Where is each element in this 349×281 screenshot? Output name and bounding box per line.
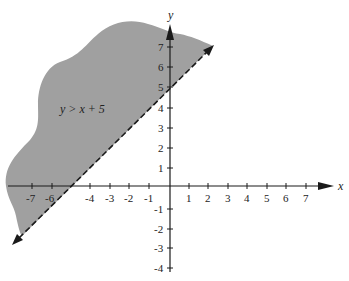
x-tick-label: -2: [124, 192, 133, 204]
x-axis-arrow-icon: [318, 182, 334, 190]
x-tick-label: 7: [303, 192, 309, 204]
x-axis-label: x: [337, 179, 344, 193]
y-tick-label: -3: [154, 242, 164, 254]
inequality-label: y > x + 5: [59, 102, 105, 116]
y-tick-label: 6: [158, 61, 164, 73]
y-tick-label: -1: [154, 203, 163, 215]
x-tick-label: 6: [283, 192, 289, 204]
x-tick-label: -4: [85, 192, 95, 204]
y-tick-label: 3: [158, 122, 164, 134]
y-tick-label: 7: [158, 41, 164, 53]
x-tick-label: 4: [244, 192, 250, 204]
x-tick-labels: -7 -6 -4 -3 -2 -1 1 2 3 4 5 6 7: [26, 192, 309, 204]
inequality-graph: x y -7 -6 -4 -3 -2 -1 1 2 3 4 5 6 7: [0, 0, 349, 281]
y-tick-label: -4: [154, 262, 164, 274]
y-tick-label: 4: [158, 102, 164, 114]
x-tick-label: 2: [205, 192, 211, 204]
x-tick-label: -1: [144, 192, 153, 204]
x-tick-label: -3: [105, 192, 115, 204]
y-tick-label: 2: [158, 142, 164, 154]
y-tick-label: -2: [154, 223, 163, 235]
y-tick-label: 1: [158, 162, 164, 174]
y-tick-label: 5: [158, 81, 164, 93]
y-axis-label: y: [167, 8, 174, 22]
x-tick-label: 5: [264, 192, 270, 204]
x-tick-label: -7: [26, 192, 36, 204]
x-tick-label: 1: [186, 192, 192, 204]
x-tick-label: 3: [225, 192, 231, 204]
x-tick-label: -6: [45, 192, 55, 204]
